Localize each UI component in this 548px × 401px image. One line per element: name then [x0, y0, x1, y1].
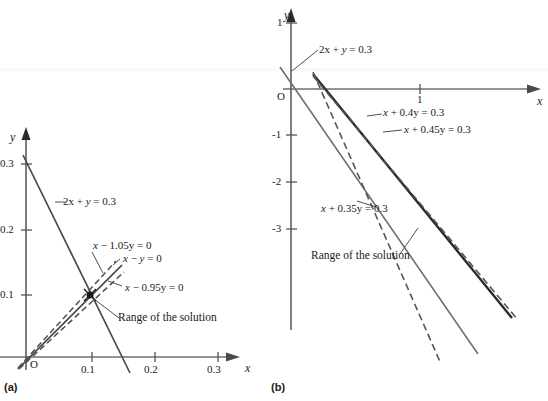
panel-b-axes — [283, 8, 541, 330]
panel-b-x-axis-label: x — [537, 95, 542, 107]
panel-b-ytick-m2: -2 — [272, 176, 281, 187]
panel-b-label-x-plus-045y: x + 0.45y = 0.3 — [404, 124, 471, 135]
panel-b-label-x-plus-04y: x + 0.4y = 0.3 — [383, 107, 444, 118]
panel-b-ytick-m1: -1 — [272, 129, 281, 140]
panel-b-label-2x-plus-y: 2x + y = 0.3 — [319, 44, 372, 55]
panel-b-leaders — [292, 50, 418, 254]
panel-b-ytick-m3: -3 — [272, 223, 281, 234]
panel-b-y-axis-label: y — [284, 9, 289, 21]
panel-b-plot — [0, 0, 548, 401]
panel-b-label-range: Range of the solution — [311, 250, 410, 262]
panel-b-label-x-plus-035y: x + 0.35y = 0.3 — [321, 203, 388, 214]
panel-b-caption: (b) — [271, 382, 285, 393]
panel-b-origin-label: O — [277, 91, 285, 102]
figure-root: 2x + y = 0.3 x − 1.05y = 0 x − y = 0 x −… — [0, 0, 548, 401]
panel-b-ytick-1: 1 — [277, 17, 283, 28]
panel-b-xtick-1: 1 — [417, 94, 423, 105]
